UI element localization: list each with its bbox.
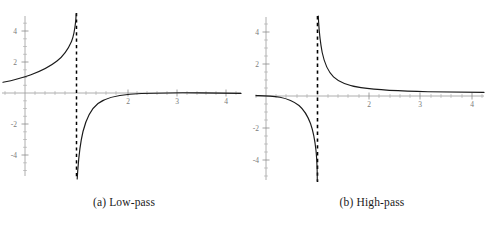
- x-tick-label: 4: [224, 97, 228, 106]
- panel-caption-high-pass: (b) High-pass: [248, 196, 496, 208]
- figure-panel-high-pass: 4 2 -2 -4 2 3 4 (b) High-pass: [248, 0, 496, 230]
- y-tick-label: 4: [13, 27, 17, 36]
- low-pass-right-branch-curve: [77, 93, 241, 179]
- figure-row: 4 2 -2 -4 2 3 4 (a) Low-pass: [0, 0, 496, 230]
- y-tick-label: 2: [13, 58, 17, 67]
- y-tick-label: 4: [255, 28, 259, 37]
- low-pass-left-branch-curve: [3, 14, 76, 83]
- y-tick-label: -4: [11, 151, 17, 160]
- y-tick-label: -2: [11, 120, 17, 129]
- x-tick-label: 3: [418, 100, 422, 109]
- x-tick-label: 2: [367, 100, 371, 109]
- x-tick-label: 3: [175, 97, 179, 106]
- y-tick-label: 2: [255, 60, 259, 69]
- plot-area-low-pass: 4 2 -2 -4 2 3 4: [0, 0, 248, 196]
- high-pass-right-branch-curve: [318, 16, 484, 92]
- panel-caption-low-pass: (a) Low-pass: [0, 196, 248, 208]
- figure-panel-low-pass: 4 2 -2 -4 2 3 4 (a) Low-pass: [0, 0, 248, 230]
- x-tick-label: 2: [126, 97, 130, 106]
- low-pass-plot-svg: 4 2 -2 -4 2 3 4: [0, 0, 248, 196]
- y-tick-label: -2: [253, 124, 259, 133]
- y-tick-label: -4: [253, 156, 259, 165]
- high-pass-plot-svg: 4 2 -2 -4 2 3 4: [248, 0, 496, 196]
- plot-area-high-pass: 4 2 -2 -4 2 3 4: [248, 0, 496, 196]
- x-tick-label: 4: [470, 100, 474, 109]
